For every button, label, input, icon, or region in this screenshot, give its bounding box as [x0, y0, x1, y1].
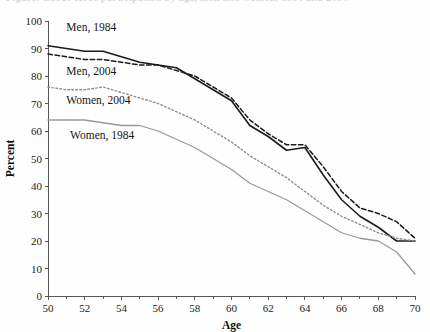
axis-spines	[48, 21, 415, 296]
x-tick-label: 56	[153, 302, 165, 314]
series-label-2: Women, 2004	[66, 94, 130, 107]
y-tick-label: 100	[26, 15, 43, 27]
y-tick-label: 0	[37, 290, 43, 302]
series-line-1	[48, 54, 415, 238]
x-axis-title: Age	[222, 319, 241, 332]
x-tick-label: 66	[336, 302, 348, 314]
y-tick-label: 30	[31, 208, 43, 220]
x-tick-label: 50	[43, 302, 55, 314]
series-label-0: Men, 1984	[66, 21, 116, 34]
y-tick-label: 50	[31, 153, 43, 165]
y-tick-label: 40	[31, 180, 43, 192]
x-tick-label: 68	[373, 302, 385, 314]
figure-container: Figure: Labor force participation by age…	[0, 0, 430, 332]
y-tick-label: 20	[31, 235, 43, 247]
y-axis-title: Percent	[4, 140, 16, 178]
x-tick-label: 54	[116, 302, 128, 314]
series-line-3	[48, 120, 415, 274]
series-line-2	[48, 87, 415, 241]
series-label-1: Men, 2004	[66, 65, 116, 78]
series-label-3: Women, 1984	[70, 129, 134, 142]
x-tick-label: 62	[263, 302, 274, 314]
y-tick-label: 10	[31, 263, 43, 275]
line-chart: 0102030405060708090100505254565860626466…	[0, 0, 430, 332]
x-tick-label: 70	[410, 302, 422, 314]
y-tick-label: 80	[31, 70, 43, 82]
y-tick-label: 60	[31, 125, 43, 137]
y-tick-label: 90	[31, 43, 43, 55]
x-tick-label: 52	[79, 302, 90, 314]
x-tick-label: 60	[226, 302, 238, 314]
y-tick-label: 70	[31, 98, 43, 110]
x-tick-label: 64	[299, 302, 311, 314]
x-tick-label: 58	[189, 302, 201, 314]
